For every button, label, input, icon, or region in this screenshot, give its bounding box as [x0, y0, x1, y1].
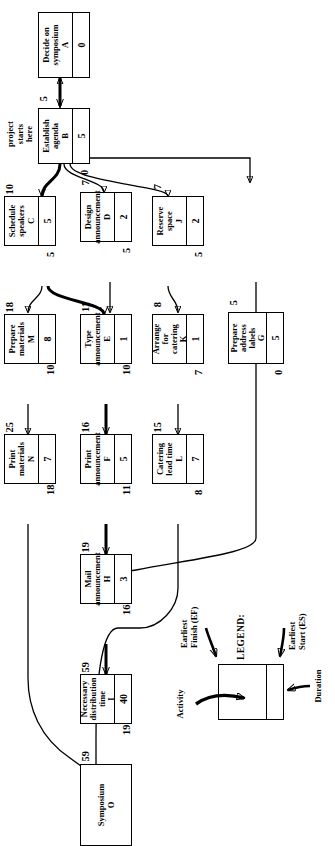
- legend-earliest-start-label: Earliest Start (ES): [288, 580, 307, 650]
- legend-duration-label: Duration: [314, 656, 324, 716]
- legend-activity-label: Activity: [176, 674, 186, 734]
- legend-earliest-finish-label: Earliest Finish (EF): [180, 572, 199, 648]
